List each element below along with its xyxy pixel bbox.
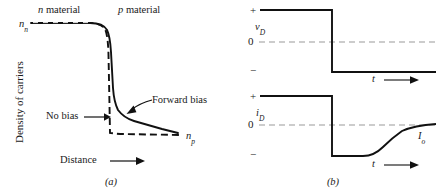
label-forward-bias: Forward bias: [152, 95, 207, 106]
label-id: iD: [256, 108, 264, 121]
forward-bias-leader-arrow: [127, 100, 153, 114]
no-bias-leader-arrow: [84, 113, 111, 120]
label-no-bias: No bias: [46, 111, 78, 122]
distance-axis-arrow: [110, 157, 145, 165]
x-axis-label-distance: Distance: [60, 155, 97, 166]
y-axis-label-density: Density of carriers: [13, 61, 25, 143]
vd-plus-tick: +: [250, 5, 256, 16]
id-time-axis-arrow: [384, 161, 419, 168]
vd-waveform: [260, 10, 436, 72]
vd-x-axis-label-t: t: [372, 74, 375, 85]
panel-b-caption: (b): [222, 176, 444, 187]
vd-time-axis-arrow: [384, 76, 419, 83]
id-waveform: [260, 96, 436, 156]
vd-minus-tick: −: [250, 65, 256, 76]
label-io-saturation-current: Io: [418, 131, 425, 144]
id-zero-tick: 0: [248, 119, 254, 130]
id-minus-tick: −: [250, 149, 256, 160]
label-vd: vD: [255, 22, 265, 35]
panel-a-caption: (a): [0, 176, 222, 187]
panel-a-carrier-density: Density of carriers nn n material p mate…: [0, 0, 222, 194]
label-p-material: p material: [118, 5, 160, 16]
id-x-axis-label-t: t: [372, 159, 375, 170]
label-np: np: [186, 131, 195, 144]
label-nn: nn: [19, 19, 28, 32]
id-plus-tick: +: [250, 91, 256, 102]
label-n-material: n material: [38, 5, 80, 16]
figure-container: Density of carriers nn n material p mate…: [0, 0, 444, 194]
panel-b-waveforms: vD + 0 − t iD + 0 − t Io (b): [222, 0, 444, 194]
vd-zero-tick: 0: [248, 36, 254, 47]
